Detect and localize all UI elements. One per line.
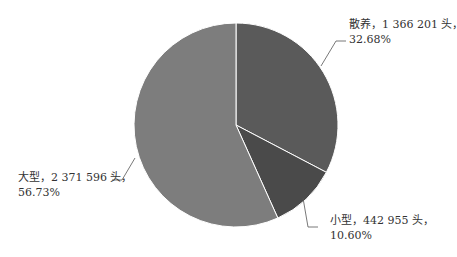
label-sanyang-line2: 32.68%: [349, 32, 457, 47]
label-sanyang: 散养，1 366 201 头， 32.68%: [349, 17, 457, 47]
leader-sanyang: [321, 41, 346, 66]
label-daxing-line2: 56.73%: [18, 185, 132, 200]
label-xiaoxing: 小型，442 955 头， 10.60%: [330, 213, 434, 243]
label-sanyang-line1: 散养，1 366 201 头，: [349, 17, 457, 32]
label-xiaoxing-line2: 10.60%: [330, 228, 434, 243]
label-xiaoxing-line1: 小型，442 955 头，: [330, 213, 434, 228]
label-daxing-line1: 大型，2 371 596 头，: [18, 170, 132, 185]
label-daxing: 大型，2 371 596 头， 56.73%: [18, 170, 132, 200]
leader-xiaoxing: [303, 198, 318, 227]
